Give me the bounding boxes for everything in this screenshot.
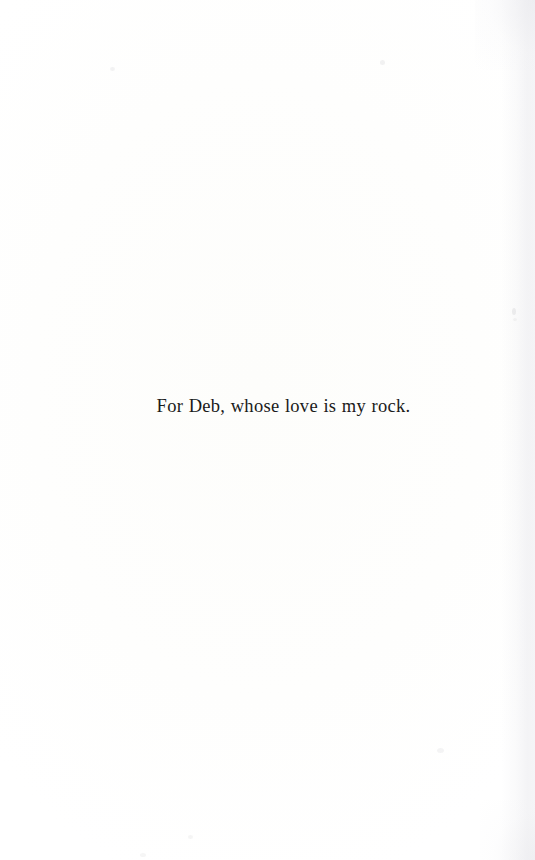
dedication-block: For Deb, whose love is my rock. — [0, 394, 535, 418]
speck-right-margin-low — [513, 318, 517, 321]
speck-right-margin — [512, 308, 516, 315]
top-right-corner-shadow — [475, 0, 535, 70]
speck-bottom-edge — [140, 853, 146, 857]
speck-upper-left — [110, 67, 115, 71]
bottom-right-corner-shadow — [480, 800, 535, 860]
page-gutter-shadow — [501, 0, 535, 860]
scanned-page: For Deb, whose love is my rock. — [0, 0, 535, 860]
speck-lower-left — [188, 835, 193, 839]
speck-upper-right — [380, 60, 385, 65]
dedication-text: For Deb, whose love is my rock. — [125, 394, 411, 418]
speck-lower-right — [437, 748, 444, 753]
paper-texture-overlay — [0, 0, 535, 860]
